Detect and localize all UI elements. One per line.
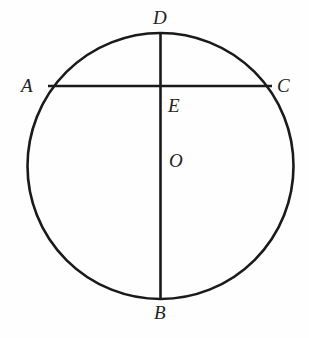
vertex-label-C: C bbox=[277, 76, 290, 95]
vertex-label-A: A bbox=[21, 76, 33, 95]
geometry-canvas bbox=[0, 0, 309, 338]
vertex-label-D: D bbox=[153, 8, 167, 27]
vertex-label-O: O bbox=[169, 151, 183, 170]
vertex-label-B: B bbox=[154, 303, 166, 322]
vertex-label-E: E bbox=[168, 96, 180, 115]
geometry-diagram: D A C E O B bbox=[0, 0, 309, 338]
